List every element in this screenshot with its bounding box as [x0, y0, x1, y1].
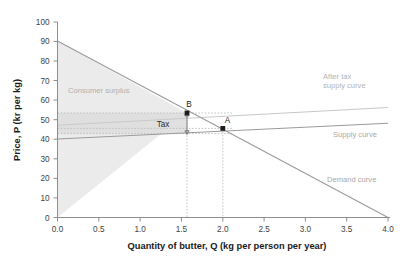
x-tick-label: 4.0 [382, 225, 394, 234]
y-axis-title: Price, P (kr per kg) [12, 79, 22, 161]
tax-label: Tax [157, 120, 170, 129]
y-tick-label: 40 [40, 135, 50, 144]
y-tick-label: 100 [36, 18, 50, 27]
y-axis-ticks: 0 10 20 30 40 50 60 70 80 90 100 [36, 18, 58, 223]
supply-curve-label: Supply curve [333, 130, 377, 139]
y-tick-label: 30 [40, 155, 50, 164]
point-marker-b [185, 111, 190, 116]
x-tick-label: 3.0 [300, 225, 312, 234]
x-tick-label: 2.5 [258, 225, 270, 234]
x-tick-label: 1.0 [134, 225, 146, 234]
x-axis-title: Quantity of butter, Q (kg per person per… [128, 241, 327, 251]
y-tick-label: 20 [40, 174, 50, 183]
point-label-b: B [186, 100, 192, 109]
x-tick-label: 1.5 [176, 225, 188, 234]
y-tick-label: 0 [45, 214, 50, 223]
point-marker-a [220, 126, 225, 131]
shaded-regions [58, 41, 188, 218]
x-axis-ticks: 0.0 0.5 1.0 1.5 2.0 2.5 3.0 3.5 4.0 [52, 218, 394, 234]
y-tick-label: 70 [40, 77, 50, 86]
point-label-a: A [225, 116, 231, 125]
y-tick-label: 90 [40, 37, 50, 46]
x-tick-label: 3.5 [341, 225, 353, 234]
chart-canvas: 0 10 20 30 40 50 60 70 80 90 100 0.0 0.5… [0, 0, 418, 268]
demand-curve-label: Demand curve [327, 175, 376, 184]
supply-demand-chart: 0 10 20 30 40 50 60 70 80 90 100 0.0 0.5… [0, 0, 418, 268]
y-tick-label: 60 [40, 96, 50, 105]
y-tick-label: 50 [40, 116, 50, 125]
after-tax-supply-curve-label-line2: supply curve [323, 81, 366, 90]
x-tick-label: 0.5 [93, 225, 105, 234]
x-tick-label: 2.0 [217, 225, 229, 234]
y-tick-label: 80 [40, 57, 50, 66]
y-tick-label: 10 [40, 194, 50, 203]
x-tick-label: 0.0 [52, 225, 64, 234]
data-points: B A [185, 100, 231, 131]
consumer-surplus-label: Consumer surplus [68, 86, 130, 95]
after-tax-supply-curve-label-line1: After tax [323, 72, 351, 81]
